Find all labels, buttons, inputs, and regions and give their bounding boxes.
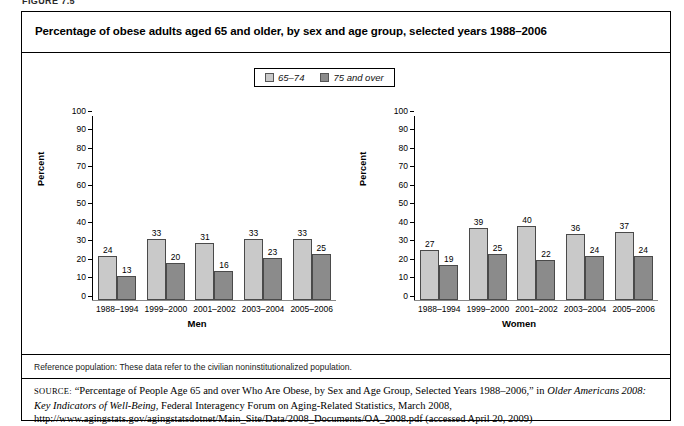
bar[interactable] (214, 271, 233, 300)
y-tick-label: 90 (77, 125, 86, 134)
bar-value-label: 24 (638, 246, 647, 255)
bar-column[interactable]: 16 (214, 116, 233, 300)
y-tick-70: 70 (77, 162, 92, 172)
notes-divider-top (22, 354, 670, 355)
bar[interactable] (195, 243, 214, 300)
chart-legend: 65–74 75 and over (254, 68, 395, 87)
bar[interactable] (166, 263, 185, 300)
panel-title-men: Men (58, 318, 336, 329)
bar-value-label: 19 (444, 255, 453, 264)
chart-panel-women: Percent 0102030405060708090100 271939254… (354, 108, 664, 348)
y-tick-label: 20 (399, 255, 408, 264)
bar-value-label: 33 (249, 229, 258, 238)
bar[interactable] (98, 256, 117, 300)
y-tick-30: 30 (399, 236, 414, 246)
y-tick-label: 70 (77, 162, 86, 171)
y-tick-20: 20 (77, 254, 92, 264)
y-tick-80: 80 (399, 143, 414, 153)
x-axis-label: 2005–2006 (609, 304, 658, 314)
bar-value-label: 24 (103, 246, 112, 255)
legend-swatch-65-74 (265, 73, 274, 82)
x-axis-line-men (92, 300, 336, 301)
notes-divider-bottom (22, 378, 670, 379)
bar-group: 3325 (287, 116, 336, 300)
bar[interactable] (117, 276, 136, 300)
bar[interactable] (293, 239, 312, 300)
bar-group: 3116 (190, 116, 239, 300)
y-tick-label: 60 (399, 181, 408, 190)
y-tick-label: 50 (399, 199, 408, 208)
source-note: SOURCE: “Percentage of People Age 65 and… (34, 384, 658, 426)
bar-value-label: 40 (522, 216, 531, 225)
x-axis-label: 1999–2000 (142, 304, 191, 314)
y-tick-50: 50 (77, 199, 92, 209)
bar-value-label: 22 (541, 250, 550, 259)
bar[interactable] (469, 228, 488, 300)
bar-group: 3624 (561, 116, 610, 300)
figure-root: FIGURE 7.5 Percentage of obese adults ag… (0, 0, 684, 426)
bar-column[interactable]: 33 (147, 116, 166, 300)
legend-label-65-74: 65–74 (278, 72, 304, 83)
bar-value-label: 24 (590, 246, 599, 255)
y-tick-50: 50 (399, 199, 414, 209)
bar-column[interactable]: 33 (244, 116, 263, 300)
bar[interactable] (420, 250, 439, 300)
y-axis-men: 0102030405060708090100 (58, 116, 92, 301)
bar[interactable] (312, 254, 331, 300)
y-axis-label-men: Percent (36, 152, 46, 186)
legend-item-65-74: 65–74 (265, 72, 304, 83)
bar-column[interactable]: 19 (439, 116, 458, 300)
bar[interactable] (517, 226, 536, 300)
bar-value-label: 31 (200, 233, 209, 242)
bar-column[interactable]: 24 (98, 116, 117, 300)
bar-value-label: 16 (219, 261, 228, 270)
x-axis-labels-men: 1988–19941999–20002001–20022003–20042005… (93, 304, 336, 314)
bar[interactable] (634, 256, 653, 300)
bar[interactable] (536, 260, 555, 300)
bar-column[interactable]: 37 (615, 116, 634, 300)
y-tick-10: 10 (77, 273, 92, 283)
bar[interactable] (488, 254, 507, 300)
bar-column[interactable]: 31 (195, 116, 214, 300)
bar-value-label: 13 (122, 266, 131, 275)
bar[interactable] (147, 239, 166, 300)
x-axis-label: 2005–2006 (287, 304, 336, 314)
bar[interactable] (566, 234, 585, 300)
y-tick-label: 40 (77, 218, 86, 227)
x-axis-labels-women: 1988–19941999–20002001–20022003–20042005… (415, 304, 658, 314)
bar-column[interactable]: 40 (517, 116, 536, 300)
bar[interactable] (439, 265, 458, 300)
bar-group: 2413 (93, 116, 142, 300)
bar[interactable] (244, 239, 263, 300)
bar-group: 3724 (609, 116, 658, 300)
bar-column[interactable]: 22 (536, 116, 555, 300)
bar-column[interactable]: 27 (420, 116, 439, 300)
bar-column[interactable]: 39 (469, 116, 488, 300)
bar-column[interactable]: 24 (634, 116, 653, 300)
y-tick-label: 0 (403, 292, 408, 301)
bar[interactable] (263, 258, 282, 300)
plot-area-women: 0102030405060708090100 27193925402236243… (380, 116, 658, 301)
chart-panel-men: Percent 0102030405060708090100 241333203… (32, 108, 342, 348)
y-tick-mark (410, 111, 414, 112)
bar-column[interactable]: 25 (488, 116, 507, 300)
y-tick-40: 40 (77, 217, 92, 227)
bar-column[interactable]: 33 (293, 116, 312, 300)
y-tick-60: 60 (399, 180, 414, 190)
bar-column[interactable]: 36 (566, 116, 585, 300)
bar-column[interactable]: 13 (117, 116, 136, 300)
bar-column[interactable]: 23 (263, 116, 282, 300)
y-tick-80: 80 (77, 143, 92, 153)
y-tick-label: 0 (81, 292, 86, 301)
bar-group: 3323 (239, 116, 288, 300)
y-tick-mark (88, 111, 92, 112)
bar-value-label: 37 (619, 222, 628, 231)
bars-men: 24133320311633233325 (93, 116, 336, 300)
bar-value-label: 25 (316, 244, 325, 253)
bar[interactable] (615, 232, 634, 300)
bar-column[interactable]: 25 (312, 116, 331, 300)
bar[interactable] (585, 256, 604, 300)
bar-column[interactable]: 20 (166, 116, 185, 300)
bar-column[interactable]: 24 (585, 116, 604, 300)
chart-panels: Percent 0102030405060708090100 241333203… (22, 108, 670, 348)
